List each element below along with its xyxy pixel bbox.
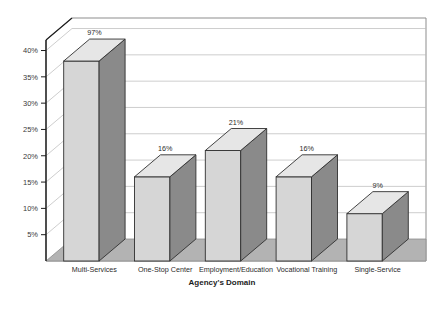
x-category-label: Employment/Education xyxy=(199,265,273,274)
y-tick-group: 5%10%15%20%25%30%35%40% xyxy=(23,46,46,239)
y-tick-label: 35% xyxy=(23,73,38,82)
bar-0 xyxy=(64,39,125,261)
bar-front-face xyxy=(64,61,99,261)
y-tick-label: 15% xyxy=(23,178,38,187)
bar-value-label: 21% xyxy=(229,118,244,127)
y-tick-label: 25% xyxy=(23,125,38,134)
x-category-label: Multi-Services xyxy=(72,265,118,274)
bar-value-label: 97% xyxy=(87,28,102,37)
x-axis-title: Agency's Domain xyxy=(189,278,256,287)
bar-front-face xyxy=(347,214,382,261)
y-tick-label: 40% xyxy=(23,46,38,55)
x-category-label: One-Stop Center xyxy=(138,265,193,274)
chart-svg: 5%10%15%20%25%30%35%40% 97%16%21%16%9% M… xyxy=(0,0,444,309)
bar-value-label: 16% xyxy=(300,144,315,153)
bar-1 xyxy=(135,155,196,261)
x-category-label: Single-Service xyxy=(354,265,400,274)
bar-2 xyxy=(205,129,266,262)
bar-3 xyxy=(276,155,337,261)
bar-front-face xyxy=(276,177,311,261)
bar-side-face xyxy=(99,39,125,261)
bar-front-face xyxy=(135,177,170,261)
bar-value-label: 16% xyxy=(158,144,173,153)
category-label-group: Multi-ServicesOne-Stop CenterEmployment/… xyxy=(72,265,401,274)
bar-chart-figure: 5%10%15%20%25%30%35%40% 97%16%21%16%9% M… xyxy=(0,0,444,309)
y-tick-label: 5% xyxy=(27,230,38,239)
x-category-label: Vocational Training xyxy=(276,265,337,274)
y-tick-label: 20% xyxy=(23,152,38,161)
bar-front-face xyxy=(205,151,240,262)
bar-side-face xyxy=(241,129,267,262)
bar-value-label: 9% xyxy=(372,181,383,190)
y-tick-label: 10% xyxy=(23,204,38,213)
y-tick-label: 30% xyxy=(23,99,38,108)
